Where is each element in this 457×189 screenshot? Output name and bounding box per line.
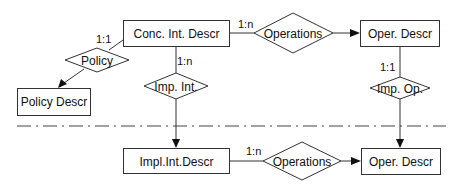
relation-imp-op[interactable]: Imp. Op. [370,77,430,99]
cardinality-operations-top: 1:n [238,18,253,30]
link-policy-policydescr [64,69,84,83]
relation-operations-bottom[interactable]: Operations [263,142,341,180]
entity-label: Conc. Int. Descr [133,27,219,41]
arrow-head-icon [350,29,360,37]
entity-label: Oper. Descr [369,155,433,169]
relation-policy[interactable]: Policy [65,48,129,72]
arrow-head-icon [396,139,404,148]
arrow-head-icon [351,157,361,165]
relation-label: Imp. Int. [154,80,197,94]
cardinality-imp-int: 1:n [177,55,192,67]
entity-label: Oper. Descr [368,27,432,41]
cardinality-operations-bottom: 1:n [246,145,261,157]
entity-conc-int-descr[interactable]: Conc. Int. Descr [124,21,230,47]
cardinality-imp-op: 1:1 [380,61,395,73]
entity-label: Impl.Int.Descr [139,155,213,169]
relation-operations-top[interactable]: Operations [254,13,333,53]
entity-oper-descr-top[interactable]: Oper. Descr [361,21,440,47]
arrow-head-icon [58,79,67,88]
relation-label: Policy [81,54,113,68]
entity-impl-int-descr[interactable]: Impl.Int.Descr [124,149,230,174]
relation-imp-int[interactable]: Imp. Int. [144,73,208,99]
entity-policy-descr[interactable]: Policy Descr [18,89,91,116]
relation-label: Operations [264,27,323,41]
entity-oper-descr-bottom[interactable]: Oper. Descr [362,149,441,175]
er-diagram: Conc. Int. Descr Policy Descr Oper. Desc… [0,0,457,189]
arrow-head-icon [172,139,180,148]
relation-label: Operations [273,155,332,169]
relation-label: Imp. Op. [377,82,423,96]
cardinality-policy: 1:1 [96,33,111,45]
entity-label: Policy Descr [21,95,88,109]
